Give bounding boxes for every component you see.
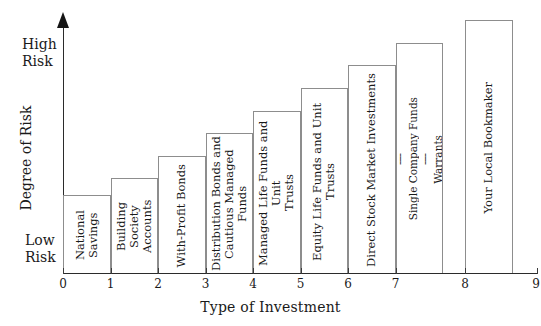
x-tick-label-4: 4 [241, 277, 265, 291]
bar-label-group: With-Profit Bonds [159, 157, 205, 274]
bar-with-profit-bonds: With-Profit Bonds [158, 156, 206, 274]
x-tick-4 [253, 268, 254, 274]
bar-label-separator-2: ---- [419, 154, 432, 165]
x-tick-label-5: 5 [289, 277, 313, 291]
bar-label-building-society-accounts: Building Society Accounts [115, 179, 154, 274]
bar-label-distribution-bonds-cautious-managed-funds: Distribution Bonds and Cautious Managed … [210, 134, 249, 274]
bar-label-national-savings: National Savings [74, 208, 100, 262]
x-tick-label-1: 1 [99, 277, 123, 291]
x-tick-label-6: 6 [336, 277, 360, 291]
bar-label-direct-stock-market-investments: Direct Stock Market Investments [365, 71, 378, 269]
x-tick-3 [206, 268, 207, 274]
bar-label-group: Equity Life Funds and Unit Trusts [302, 89, 348, 274]
x-tick-6 [348, 268, 349, 274]
bar-label-group: Direct Stock Market Investments [349, 66, 395, 274]
risk-vs-investment-chart: Degree of Risk High Risk Low Risk Nation… [0, 0, 541, 326]
y-axis-high-line1: High [22, 36, 74, 53]
y-axis-high-line2: Risk [22, 53, 74, 70]
bar-distribution-bonds-cautious-managed-funds: Distribution Bonds and Cautious Managed … [206, 133, 254, 274]
bar-sublabel-column-3: Warrants Options [432, 44, 443, 274]
y-axis-title: Degree of Risk [18, 88, 34, 228]
x-tick-7 [396, 268, 397, 274]
bar-label-equity-life-funds-and-unit-trusts: Equity Life Funds and Unit Trusts [311, 89, 337, 274]
bar-label-group: Managed Life Funds and Unit Trusts [254, 112, 300, 274]
x-tick-label-0: 0 [51, 277, 75, 291]
bar-managed-life-funds-and-unit-trusts: Managed Life Funds and Unit Trusts [253, 111, 301, 274]
x-tick-0 [63, 268, 64, 274]
bar-equity-life-funds-and-unit-trusts: Equity Life Funds and Unit Trusts [301, 88, 349, 274]
x-tick-label-7: 7 [384, 277, 408, 291]
bar-label-single-company-funds: Single Company Funds [407, 95, 419, 222]
x-tick-8 [465, 268, 466, 274]
y-axis-high-risk-label: High Risk [22, 36, 74, 70]
bar-label-group: Emerging Markets Funds ---- Single Compa… [397, 44, 443, 274]
bar-label-group: National Savings [64, 196, 110, 274]
bar-label-separator-1: ---- [396, 154, 408, 165]
bar-emerging-markets-single-company-warrants-options: Emerging Markets Funds ---- Single Compa… [396, 43, 444, 274]
bar-national-savings: National Savings [63, 195, 111, 274]
x-tick-9 [537, 268, 538, 274]
x-tick-label-8: 8 [453, 277, 477, 291]
bar-direct-stock-market-investments: Direct Stock Market Investments [348, 65, 396, 274]
x-tick-1 [111, 268, 112, 274]
bar-label-managed-life-funds-and-unit-trusts: Managed Life Funds and Unit Trusts [257, 112, 296, 274]
x-tick-2 [158, 268, 159, 274]
bar-label-your-local-bookmaker: Your Local Bookmaker [482, 80, 495, 216]
bar-label-group: Distribution Bonds and Cautious Managed … [207, 134, 253, 274]
bar-label-warrants: Warrants [432, 133, 443, 186]
x-tick-label-3: 3 [194, 277, 218, 291]
bar-building-society-accounts: Building Society Accounts [111, 178, 159, 274]
x-tick-label-2: 2 [146, 277, 170, 291]
bar-label-group: Your Local Bookmaker [466, 21, 512, 274]
bar-sublabel-column-2: Single Company Funds [407, 44, 419, 274]
bar-label-with-profit-bonds: With-Profit Bonds [175, 162, 188, 269]
x-axis-title: Type of Investment [0, 299, 541, 315]
x-tick-label-9: 9 [524, 277, 541, 291]
bar-your-local-bookmaker: Your Local Bookmaker [465, 20, 513, 274]
y-axis-arrow-icon [57, 12, 69, 28]
bar-label-group: Building Society Accounts [112, 179, 158, 274]
x-tick-5 [301, 268, 302, 274]
